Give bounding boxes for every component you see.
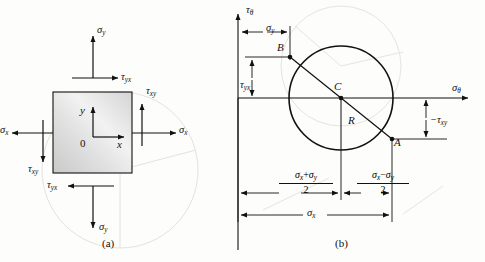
dimension-label-sigma-sum-half: σx+σy 2 <box>279 170 333 195</box>
label-sigma-y-top: σy <box>97 24 105 37</box>
label-axis-sigma-theta: σθ <box>452 82 461 95</box>
label-dim-tau-yx: τyx <box>240 79 250 92</box>
label-sigma-x-left: σx <box>0 124 8 137</box>
point-marker-c <box>339 96 344 101</box>
label-tau-xy-left: τxy <box>28 163 38 176</box>
label-axis-y: y <box>80 104 85 116</box>
caption-panel-a: (a) <box>102 237 114 249</box>
label-tau-yx-bottom: τyx <box>47 179 57 192</box>
label-dim-sigma-x: σx <box>307 207 315 220</box>
label-axis-tau-theta: τθ <box>246 4 253 17</box>
label-sigma-y-bottom: σy <box>99 221 107 234</box>
label-axis-x: x <box>117 138 122 150</box>
panel-a-graphics <box>0 0 243 262</box>
caption-panel-b: (b) <box>335 237 348 249</box>
label-tau-yx-top: τyx <box>121 71 131 84</box>
label-radius-r: R <box>348 114 355 126</box>
panel-b-graphics <box>233 0 485 262</box>
dimension-label-sigma-diff-half: σx−σy 2 <box>357 170 409 195</box>
figure-canvas: σy τyx τxy σx σx τxy τyx σy y x 0 (a) <box>0 0 485 262</box>
label-point-b: B <box>277 41 284 53</box>
label-sigma-x-right: σx <box>179 124 187 137</box>
label-dim-sigma-y: σy <box>266 22 274 35</box>
label-origin: 0 <box>80 137 86 149</box>
label-point-c: C <box>334 80 341 92</box>
label-tau-xy-right: τxy <box>146 85 156 98</box>
label-point-a: A <box>394 136 401 148</box>
label-dim-neg-tau-xy: −τxy <box>430 114 447 127</box>
